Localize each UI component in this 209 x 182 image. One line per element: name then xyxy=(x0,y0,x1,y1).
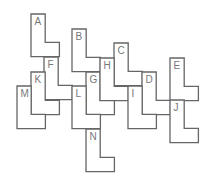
piece-label: K xyxy=(35,74,42,85)
piece-b: B xyxy=(72,29,100,72)
piece-f: F xyxy=(44,57,72,100)
piece-label: N xyxy=(90,131,97,142)
piece-a: A xyxy=(31,14,59,57)
piece-label: A xyxy=(35,16,42,27)
piece-label: M xyxy=(21,88,29,99)
piece-label: I xyxy=(132,88,135,99)
piece-label: L xyxy=(76,88,82,99)
piece-label: E xyxy=(174,60,181,71)
piece-label: C xyxy=(118,45,125,56)
piece-e: E xyxy=(170,58,198,101)
piece-label: H xyxy=(104,60,111,71)
piece-j: J xyxy=(170,100,198,143)
piece-c: C xyxy=(114,43,142,86)
piece-d: D xyxy=(142,72,170,115)
piece-n: N xyxy=(86,129,114,172)
piece-label: B xyxy=(76,31,83,42)
piece-label: F xyxy=(48,59,54,70)
l-shape-puzzle-diagram: ABCDEFGHIJKLMN xyxy=(0,0,209,182)
piece-label: G xyxy=(90,74,98,85)
piece-label: J xyxy=(174,102,179,113)
piece-label: D xyxy=(146,74,153,85)
